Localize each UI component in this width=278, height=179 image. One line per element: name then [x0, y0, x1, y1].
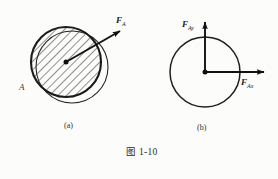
panel-b-drawing: [170, 22, 264, 107]
center-point-b: [203, 70, 208, 75]
sub-caption-a: (a): [64, 122, 73, 130]
force-label-fay: FAy: [182, 20, 194, 31]
figure-caption: 图 1-10: [126, 148, 158, 158]
figure-page: FA A (a) FAy FAx (b) 图 1-10: [0, 0, 278, 179]
point-label-a: A: [19, 83, 25, 92]
panel-a-drawing: [31, 27, 120, 103]
force-label-fay-subscript: Ay: [188, 25, 194, 31]
force-label-fax-subscript: Ax: [247, 83, 253, 89]
center-point-a: [64, 60, 69, 65]
sub-caption-b: (b): [197, 124, 206, 132]
force-label-fa-subscript: A: [122, 21, 126, 27]
force-label-fax: FAx: [241, 78, 253, 89]
force-label-fa: FA: [116, 16, 126, 27]
